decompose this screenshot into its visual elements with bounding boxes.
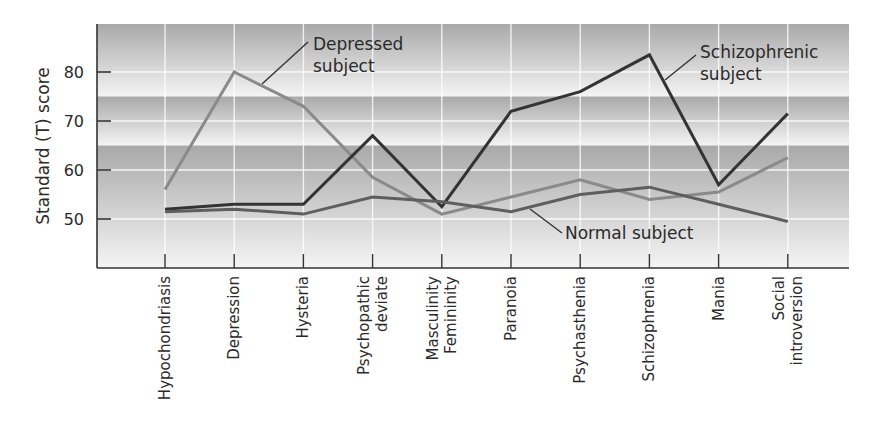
y-tick-label: 80 <box>64 63 84 82</box>
y-tick-label: 70 <box>64 112 84 131</box>
x-tick-label: Paranoia <box>502 276 520 341</box>
x-tick-label: Femininity <box>442 276 460 354</box>
y-tick-label: 60 <box>64 161 84 180</box>
x-tick-label: introversion <box>788 276 806 366</box>
x-tick-label: Hypochondriasis <box>156 276 174 400</box>
x-tick-label: Psychopathic <box>355 276 373 375</box>
y-tick-label: 50 <box>64 210 84 229</box>
x-tick-label: deviate <box>373 276 391 332</box>
x-tick-label: Mania <box>710 276 728 321</box>
series-annotation-label: Depressed <box>313 34 403 54</box>
x-tick-label: Psychasthenia <box>571 276 589 384</box>
x-tick-label: Hysteria <box>294 276 312 339</box>
series-annotation-label: Normal subject <box>565 223 694 243</box>
x-axis-ticks: HypochondriasisDepressionHysteriaPsychop… <box>156 254 806 400</box>
series-annotation-label: subject <box>313 56 375 76</box>
y-axis-label: Standard (T) score <box>33 67 53 224</box>
series-annotation-label: subject <box>700 64 762 84</box>
chart: 50607080 HypochondriasisDepressionHyster… <box>0 0 877 435</box>
x-tick-label: Schizophrenia <box>640 276 658 381</box>
series-annotation-label: Schizophrenic <box>700 42 818 62</box>
x-tick-label: Social <box>770 276 788 320</box>
x-tick-label: Depression <box>225 276 243 360</box>
x-tick-label: Masculinity <box>424 276 442 361</box>
